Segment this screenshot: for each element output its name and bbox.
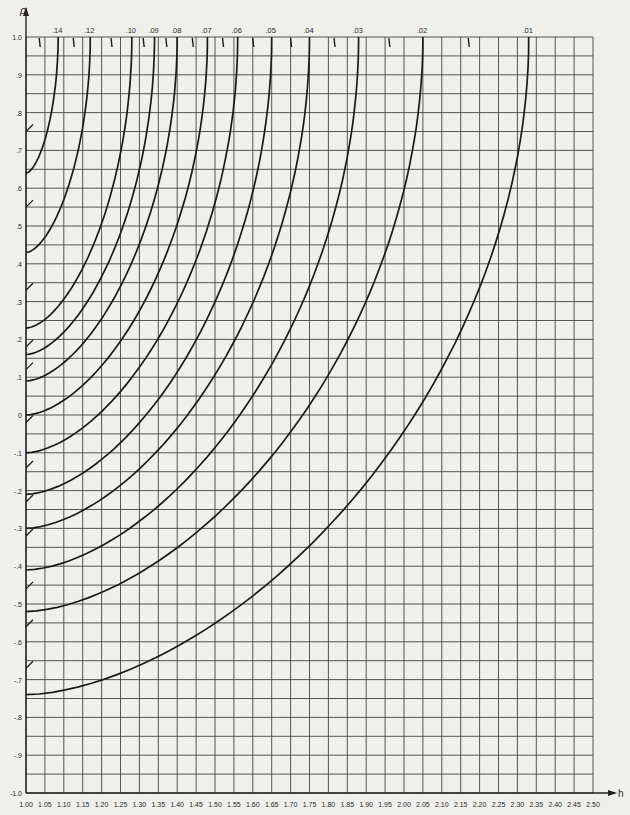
y-tick-label: .7: [16, 147, 22, 154]
edge-tick: [26, 283, 33, 290]
minor-tick: [143, 38, 144, 47]
y-axis-label: ρ: [19, 4, 26, 16]
y-tick-labels: 1.0.9.8.7.6.5.4.3.2.10-.1-.2-.3-.4-.5-.6…: [10, 34, 22, 797]
x-tick-label: 1.90: [359, 801, 373, 808]
minor-tick: [291, 38, 292, 47]
y-tick-label: -.4: [14, 563, 22, 570]
x-tick-label: 1.80: [322, 801, 336, 808]
x-tick-label: 2.45: [567, 801, 581, 808]
x-tick-labels: 1.001.051.101.151.201.251.301.351.401.45…: [19, 801, 600, 808]
curve-label: .03: [352, 26, 362, 35]
minor-tick: [253, 38, 254, 47]
curve-label: .08: [171, 26, 181, 35]
y-tick-label: .5: [16, 223, 22, 230]
curve-labels: .14.12.10.09.08.07.06.05.04.03.02.01: [52, 26, 533, 35]
edge-tick: [26, 461, 33, 468]
x-tick-label: 1.35: [151, 801, 165, 808]
curve-label: .05: [265, 26, 275, 35]
y-tick-label: -.2: [14, 488, 22, 495]
x-tick-label: 1.85: [340, 801, 354, 808]
curve-label: .02: [417, 26, 427, 35]
x-axis-arrow-icon: [608, 790, 617, 796]
minor-tick: [111, 38, 112, 47]
x-tick-label: 1.60: [246, 801, 260, 808]
x-tick-label: 1.05: [38, 801, 52, 808]
y-tick-label: 1.0: [12, 34, 22, 41]
edge-tick: [26, 363, 33, 370]
edge-tick: [26, 529, 33, 536]
curve-03: [26, 37, 359, 570]
y-tick-label: -1.0: [10, 790, 22, 797]
y-tick-label: 0: [18, 412, 22, 419]
curve-10: [26, 37, 132, 328]
x-tick-label: 2.25: [492, 801, 506, 808]
minor-ticks: [26, 38, 469, 668]
x-tick-label: 1.40: [170, 801, 184, 808]
x-tick-label: 1.65: [265, 801, 279, 808]
y-tick-label: .4: [16, 261, 22, 268]
minor-tick: [73, 38, 74, 47]
x-tick-label: 1.50: [208, 801, 222, 808]
x-tick-label: 1.00: [19, 801, 33, 808]
curve-02: [26, 37, 423, 612]
curve-14: [26, 37, 58, 173]
x-tick-label: 1.10: [57, 801, 71, 808]
y-tick-label: .6: [16, 185, 22, 192]
curve-label: .09: [148, 26, 158, 35]
x-tick-label: 1.70: [284, 801, 298, 808]
minor-tick: [468, 38, 469, 47]
edge-tick: [26, 416, 33, 423]
x-tick-label: 1.20: [95, 801, 109, 808]
curve-label: .01: [523, 26, 533, 35]
x-axis-label: h: [618, 788, 624, 799]
curve-label: .12: [84, 26, 94, 35]
y-tick-label: .8: [16, 110, 22, 117]
minor-tick: [39, 38, 40, 47]
minor-tick: [166, 38, 167, 47]
y-tick-label: .2: [16, 336, 22, 343]
minor-tick: [223, 38, 224, 47]
x-tick-label: 2.10: [435, 801, 449, 808]
curve-label: .14: [52, 26, 62, 35]
curve-12: [26, 37, 90, 253]
x-tick-label: 2.30: [511, 801, 525, 808]
y-tick-label: -.5: [14, 601, 22, 608]
y-tick-label: .9: [16, 72, 22, 79]
y-tick-label: -.8: [14, 714, 22, 721]
y-tick-label: .1: [16, 374, 22, 381]
x-tick-label: 2.35: [529, 801, 543, 808]
edge-tick: [26, 125, 33, 132]
y-tick-label: -.1: [14, 450, 22, 457]
minor-tick: [192, 38, 193, 47]
curve-label: .07: [201, 26, 211, 35]
edge-tick: [26, 200, 33, 207]
x-tick-label: 1.25: [114, 801, 128, 808]
x-tick-label: 1.95: [378, 801, 392, 808]
y-tick-label: -.6: [14, 639, 22, 646]
x-tick-label: 1.75: [303, 801, 317, 808]
x-tick-label: 1.55: [227, 801, 241, 808]
minor-tick: [334, 38, 335, 47]
grid: [26, 37, 593, 793]
curve-label: .10: [126, 26, 136, 35]
edge-tick: [26, 340, 33, 347]
curve-05: [26, 37, 272, 494]
x-tick-label: 2.05: [416, 801, 430, 808]
edge-tick: [26, 661, 33, 668]
x-tick-label: 1.30: [133, 801, 147, 808]
y-tick-label: .3: [16, 299, 22, 306]
edge-tick: [26, 495, 33, 502]
x-tick-label: 2.00: [397, 801, 411, 808]
y-tick-label: -.7: [14, 677, 22, 684]
x-tick-label: 1.15: [76, 801, 90, 808]
y-tick-label: -.3: [14, 525, 22, 532]
x-tick-label: 1.45: [189, 801, 203, 808]
minor-tick: [389, 38, 390, 47]
curve-label: .04: [303, 26, 313, 35]
x-tick-label: 2.20: [473, 801, 487, 808]
y-tick-label: -.9: [14, 752, 22, 759]
curve-label: .06: [231, 26, 241, 35]
x-tick-label: 2.40: [548, 801, 562, 808]
x-tick-label: 2.50: [586, 801, 600, 808]
chart: 1.001.051.101.151.201.251.301.351.401.45…: [0, 0, 630, 815]
